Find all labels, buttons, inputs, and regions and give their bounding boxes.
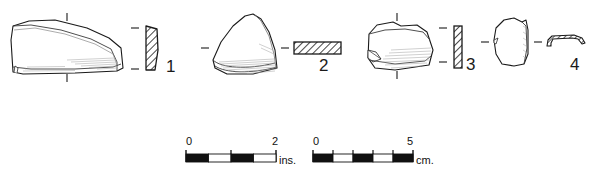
figure-number-3: 3 [466,56,475,73]
figure-number-4: 4 [570,56,579,73]
sherd-profile-4 [547,35,585,46]
figure-4-group [478,10,603,80]
scale-cm-unit-label: cm. [416,155,434,166]
figure-1-group [5,10,165,90]
scale-cm-bar [312,150,432,166]
figure-3-group [355,10,485,88]
scale-cm-end-label: 5 [407,136,413,147]
sherd-profile-2 [294,42,341,54]
sherd-profile-1 [146,26,158,70]
scale-cm-start-label: 0 [313,136,319,147]
sherd-outline-2 [213,14,277,74]
scale-inches-start-label: 0 [186,136,192,147]
sherd-profile-3 [454,26,462,68]
figure-number-2: 2 [319,57,328,74]
scale-inches-end-label: 2 [272,136,278,147]
scale-inches-unit-label: ins. [279,155,296,166]
sherd-outline-4 [494,18,528,66]
artifact-plate: 1 [0,0,607,174]
sherd-outline-3 [368,22,433,70]
figure-number-1: 1 [166,58,175,75]
figure-2-group [195,8,345,88]
sherd-outline-1 [11,20,123,74]
